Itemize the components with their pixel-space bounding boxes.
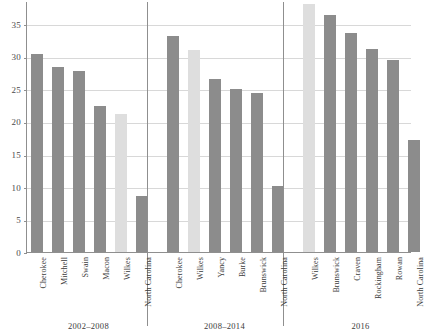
y-tick-label: 0 (0, 249, 21, 258)
bar (52, 67, 64, 252)
x-category-label: Brunswick (260, 257, 268, 293)
y-tick-label: 15 (0, 151, 21, 160)
bar (94, 106, 106, 252)
bar (31, 54, 43, 252)
x-group-label: 2008–2014 (165, 322, 285, 331)
x-group-label: 2002–2008 (29, 322, 149, 331)
bar (230, 89, 242, 252)
x-category-label: Wilkes (312, 257, 320, 280)
y-tick-label: 20 (0, 118, 21, 127)
x-category-label: Mitchell (61, 257, 69, 285)
bar (303, 4, 315, 252)
x-group-label: 2016 (301, 322, 421, 331)
bar (366, 49, 378, 253)
x-category-label: Brunswick (333, 257, 341, 293)
bar (167, 36, 179, 252)
plot-area (26, 2, 411, 253)
x-category-label: Wilkes (197, 257, 205, 280)
y-tick-label: 35 (0, 21, 21, 30)
x-category-label: North Carolina (281, 257, 289, 307)
bar (324, 15, 336, 252)
y-tick-label: 25 (0, 86, 21, 95)
bar (115, 114, 127, 252)
y-tick-label: 5 (0, 216, 21, 225)
y-tick-label: 10 (0, 184, 21, 193)
x-category-label: Rockingham (375, 257, 383, 299)
bar (251, 93, 263, 252)
x-category-label: Burke (239, 257, 247, 277)
x-category-label: Rowan (396, 257, 404, 280)
bar (408, 140, 420, 252)
x-category-label: Macon (103, 257, 111, 280)
bar (188, 50, 200, 252)
x-category-label: Swain (82, 257, 90, 278)
bar (209, 79, 221, 252)
bar (387, 60, 399, 252)
y-tick-mark (24, 253, 27, 254)
x-category-label: Wilkes (124, 257, 132, 280)
bar (73, 71, 85, 252)
x-category-label: North Carolina (145, 257, 153, 307)
x-category-label: Craven (354, 257, 362, 281)
x-category-label: North Carolina (417, 257, 425, 307)
x-category-label: Cherokee (176, 257, 184, 288)
bar-series (27, 2, 411, 252)
y-tick-label: 30 (0, 53, 21, 62)
x-category-label: Cherokee (40, 257, 48, 288)
x-category-label: Yancy (218, 257, 226, 278)
bar (345, 33, 357, 252)
